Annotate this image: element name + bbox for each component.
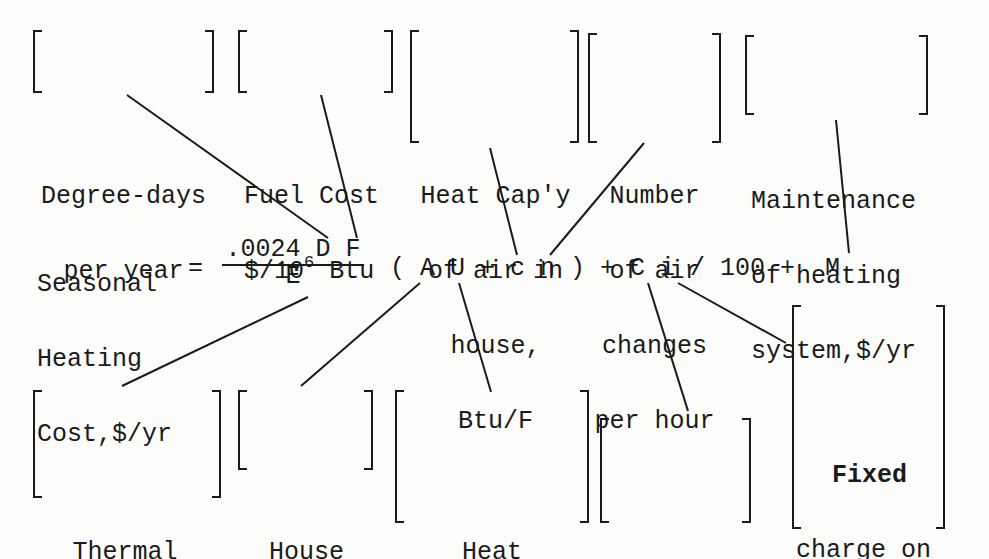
left-bracket (33, 30, 42, 93)
right-bracket (212, 390, 221, 498)
term-box-thermal-efficiency: Thermal Efficiency of Fuel Use, Percent (33, 390, 221, 498)
term-line: Number (590, 184, 719, 209)
term-line: Fuel Cost (244, 184, 387, 209)
term-line: House (242, 540, 371, 559)
term-line: charge on (796, 538, 943, 559)
right-bracket (384, 30, 393, 93)
term-line: changes (590, 334, 719, 359)
term-box-degree-days: Degree-days per year (33, 30, 214, 93)
lhs-line: Seasonal (37, 272, 172, 297)
right-bracket (570, 30, 579, 143)
left-bracket (238, 390, 247, 470)
left-bracket (600, 418, 609, 523)
lhs-line: Heating (37, 347, 172, 372)
term-line: house, (414, 334, 577, 359)
term-box-fuel-cost: Fuel Cost $/106 Btu (238, 30, 393, 93)
term-box-capital-expenditure: Capital expenditure related to heating,$ (600, 418, 751, 523)
term-line: Degree-days (39, 184, 208, 209)
term-box-heat-capacity: Heat Cap'y of air in house, Btu/F (410, 30, 579, 143)
term-box-fixed-charge: Fixed charge on capital— interest and de… (792, 305, 945, 529)
right-bracket (742, 418, 751, 523)
equals-sign: = (188, 254, 203, 283)
term-line: Thermal (35, 540, 215, 559)
term-box-heat-transfer: Heat transfer coefficient thru walls, Bt… (395, 390, 589, 523)
left-bracket (33, 390, 42, 498)
term-line: Maintenance (751, 189, 922, 214)
right-bracket (936, 305, 945, 529)
term-line: Fixed (796, 463, 943, 488)
term-box-maintenance: Maintenance of heating system,$/yr (745, 35, 928, 115)
left-bracket (745, 35, 754, 115)
formula-rhs: ( A U + c n ) + C i / 100 + M (390, 254, 840, 283)
term-line: Heat (397, 540, 587, 559)
left-bracket (792, 305, 801, 529)
left-bracket (395, 390, 404, 523)
right-bracket (919, 35, 928, 115)
term-box-air-changes: Number of air changes per hour (588, 33, 721, 143)
left-bracket (588, 33, 597, 143)
right-bracket (205, 30, 214, 93)
right-bracket (580, 390, 589, 523)
fraction-denominator: E (222, 266, 364, 288)
left-bracket (410, 30, 419, 143)
right-bracket (712, 33, 721, 143)
term-box-house-envelope: House envelope area,ft2 (238, 390, 373, 470)
term-line: Heat Cap'y (414, 184, 577, 209)
left-bracket (238, 30, 247, 93)
right-bracket (364, 390, 373, 470)
fraction: .0024 D F E (222, 238, 364, 288)
